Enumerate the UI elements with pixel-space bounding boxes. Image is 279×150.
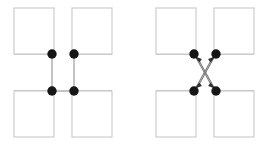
square-top-left [156,8,196,54]
node-bottom-left [189,86,198,95]
right-squares [156,8,254,137]
node-top-right [211,49,220,58]
square-top-right [214,8,254,54]
node-top-left [189,49,198,58]
right-diagram-svg [140,0,279,150]
node-top-left [47,49,56,58]
node-top-right [69,49,78,58]
square-bottom-left [156,91,196,137]
square-bottom-left [14,91,54,137]
left-edges [52,54,74,91]
left-diagram-panel [0,0,139,150]
square-top-right [72,8,112,54]
left-diagram-svg [0,0,139,150]
left-squares [14,8,112,137]
node-bottom-left [47,86,56,95]
node-bottom-right [211,86,220,95]
right-nodes [189,49,220,95]
square-bottom-right [72,91,112,137]
square-top-left [14,8,54,54]
figure-root [0,0,279,150]
node-bottom-right [69,86,78,95]
right-diagram-panel [140,0,279,150]
square-bottom-right [214,91,254,137]
